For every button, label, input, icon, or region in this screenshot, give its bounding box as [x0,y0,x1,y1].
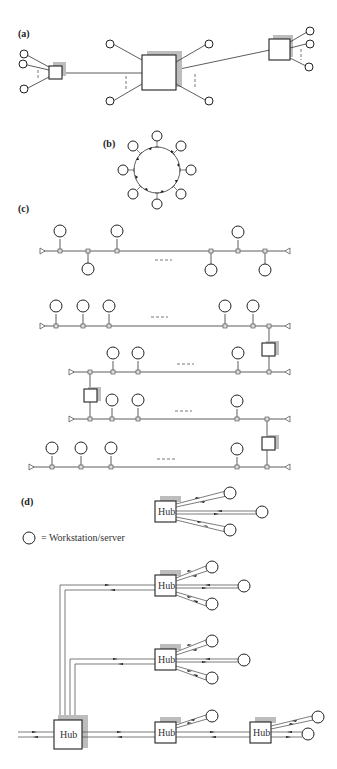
workstation-icon [238,580,250,592]
bus-segment-4 [69,387,290,437]
workstation-icon [206,635,218,647]
workstation-legend-icon [23,532,35,544]
switch-node-center [142,55,176,90]
switch-node-left [49,66,62,79]
svg-text:Hub: Hub [158,580,175,591]
repeater-icon [84,389,97,402]
svg-text:Hub: Hub [158,727,175,738]
panel-a: (a) [18,27,314,105]
workstation-icon [224,524,236,536]
repeater-icon [262,437,275,450]
workstation-icon [20,85,28,93]
workstation-icon [106,40,114,48]
repeater-icon [262,343,275,356]
panel-b: (b) [103,131,196,209]
workstation-icon [312,711,324,723]
workstation-icon [306,40,314,48]
workstation-icon [206,598,218,610]
bus-segment-3 [69,341,290,401]
svg-text:Hub: Hub [60,729,77,740]
hub-standalone: Hub [155,487,268,536]
workstation-icon [305,63,313,71]
network-topology-figure: (a) [0,0,337,769]
workstation-icon [176,141,186,151]
svg-text:Hub: Hub [158,654,175,665]
workstation-icon [205,97,213,105]
workstation-icon [256,506,268,518]
workstation-icon [128,141,138,151]
ring-stations [118,131,196,209]
workstation-icon [128,189,138,199]
panel-d-label: (d) [21,496,33,508]
panel-b-label: (b) [103,138,115,150]
bus-segment-5 [29,435,290,470]
hub-tree-middle: Hub [155,635,250,684]
panel-a-label: (a) [18,28,30,40]
legend: = Workstation/server [23,532,125,544]
switch-node-right [269,39,290,60]
workstation-icon [224,487,236,499]
svg-text:Hub: Hub [158,506,175,517]
workstation-icon [302,728,314,740]
workstation-icon [205,40,213,48]
workstation-icon [152,131,162,141]
workstation-icon [206,710,218,722]
bus-segment-1 [40,225,290,276]
hub-bottom-right: Hub [250,711,324,743]
workstation-icon [176,189,186,199]
panel-d: (d) = Workstation/server Hub [18,487,324,749]
workstation-icon [206,561,218,573]
hub-root: Hub [18,715,155,749]
panel-c-label: (c) [18,203,29,215]
workstation-icon [186,165,196,175]
hub-tree-upper: Hub [155,561,250,610]
backbone-links [60,584,155,720]
workstation-icon [106,97,114,105]
workstation-icon [19,60,27,68]
workstation-icon [118,165,128,175]
svg-text:Hub: Hub [253,727,270,738]
workstation-icon [20,50,28,58]
workstation-icon [206,672,218,684]
bus-segment-2 [40,300,290,342]
workstation-icon [152,199,162,209]
legend-text: = Workstation/server [41,532,125,543]
panel-c: (c) [18,203,290,470]
workstation-icon [306,27,314,35]
hub-bottom-middle: Hub [155,710,250,743]
workstation-icon [238,654,250,666]
